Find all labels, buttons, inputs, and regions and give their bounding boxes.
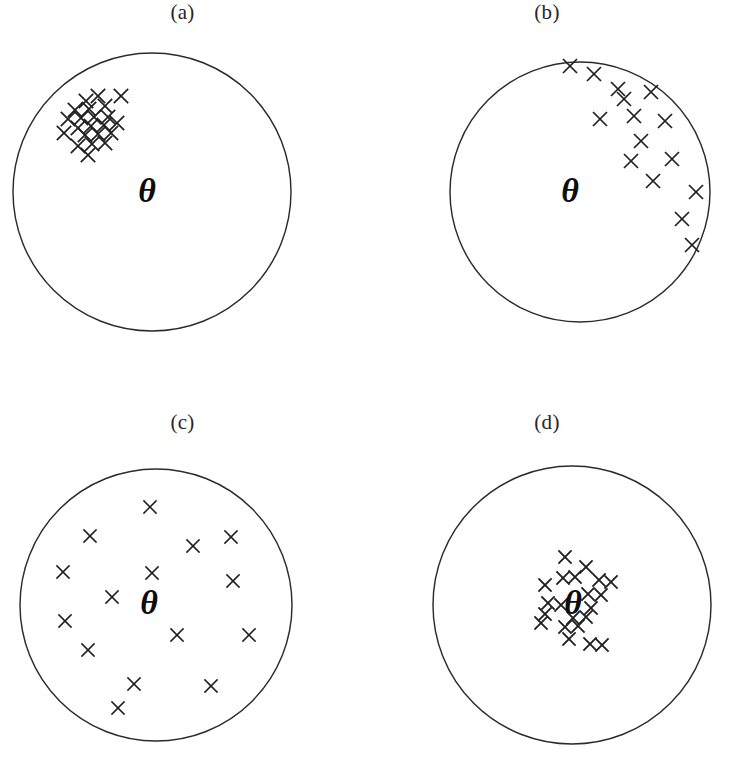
target-circle-b	[450, 62, 710, 322]
panel-a-canvas: θ	[0, 0, 365, 382]
panel-b: (b) θ	[365, 0, 729, 382]
panel-b-canvas: θ	[365, 0, 729, 382]
theta-symbol-c: θ	[140, 584, 158, 621]
panel-a: (a) θ	[0, 0, 365, 382]
theta-symbol-d: θ	[564, 584, 582, 621]
panel-c: (c) θ	[0, 410, 365, 764]
theta-symbol-a: θ	[138, 172, 156, 209]
theta-symbol-b: θ	[561, 172, 579, 209]
panel-d-canvas: θ	[365, 410, 729, 764]
figure-container: (a) θ (b) θ (c) θ (d) θ	[0, 0, 729, 764]
panel-d: (d) θ	[365, 410, 729, 764]
panel-c-canvas: θ	[0, 410, 365, 764]
